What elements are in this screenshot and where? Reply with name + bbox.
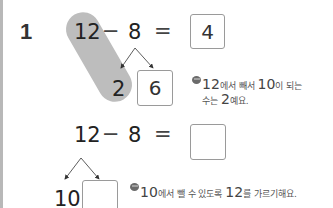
split-arrows: [0, 0, 333, 208]
